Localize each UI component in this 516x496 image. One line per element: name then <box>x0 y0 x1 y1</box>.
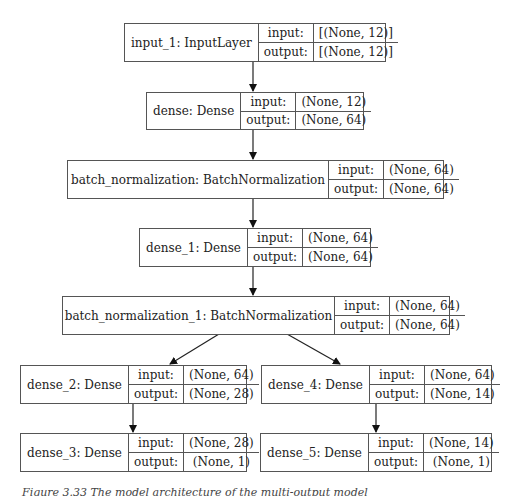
output-shape: (None, 64) <box>296 112 371 130</box>
caption-text: Figure 3.33 The model architecture of th… <box>0 486 516 496</box>
output-shape: (None, 64) <box>384 180 459 198</box>
output-shape: (None, 28) <box>184 385 259 403</box>
input-label: input: <box>259 24 313 43</box>
output-shape: (None, 64) <box>390 316 465 334</box>
output-label: output: <box>129 453 183 471</box>
input-shape: (None, 64) <box>390 297 465 316</box>
input-shape: (None, 64) <box>384 161 459 180</box>
input-shape: (None, 28) <box>184 434 259 453</box>
output-label: output: <box>248 248 302 266</box>
output-label: output: <box>241 112 295 130</box>
output-label: output: <box>129 385 183 403</box>
layer-input-1: input_1: InputLayer input: output: [(Non… <box>124 23 386 62</box>
layer-dense-2: dense_2: Dense input: output: (None, 64)… <box>20 365 247 404</box>
input-shape: [(None, 12)] <box>314 24 398 43</box>
layer-batch-normalization: batch_normalization: BatchNormalization … <box>67 160 444 199</box>
input-label: input: <box>241 93 295 112</box>
input-label: input: <box>329 161 383 180</box>
output-label: output: <box>329 180 383 198</box>
input-shape: (None, 12) <box>296 93 371 112</box>
output-shape: (None, 1) <box>424 453 499 471</box>
input-shape: (None, 64) <box>425 366 500 385</box>
output-shape: (None, 14) <box>425 385 500 403</box>
layer-name: dense: Dense <box>147 93 241 129</box>
output-shape: [(None, 12)] <box>314 43 398 61</box>
layer-name: dense_3: Dense <box>21 434 129 471</box>
output-shape: (None, 1) <box>184 453 259 471</box>
layer-dense-3: dense_3: Dense input: output: (None, 28)… <box>20 433 247 472</box>
layer-dense-5: dense_5: Dense input: output: (None, 14)… <box>260 433 492 472</box>
input-label: input: <box>248 229 302 248</box>
output-label: output: <box>369 453 423 471</box>
input-label: input: <box>129 434 183 453</box>
input-label: input: <box>370 366 424 385</box>
input-shape: (None, 64) <box>184 366 259 385</box>
input-label: input: <box>369 434 423 453</box>
output-label: output: <box>335 316 389 334</box>
layer-name: dense_2: Dense <box>21 366 129 403</box>
layer-name: dense_5: Dense <box>261 434 369 471</box>
layer-dense: dense: Dense input: output: (None, 12) (… <box>146 92 364 130</box>
layer-name: batch_normalization: BatchNormalization <box>68 161 329 198</box>
edge-bn1-dense4 <box>287 334 340 364</box>
layer-name: dense_1: Dense <box>140 229 248 266</box>
input-shape: (None, 64) <box>303 229 378 248</box>
input-label: input: <box>335 297 389 316</box>
layer-name: input_1: InputLayer <box>125 24 259 61</box>
edge-bn1-dense2 <box>170 334 219 364</box>
output-label: output: <box>259 43 313 61</box>
output-shape: (None, 64) <box>303 248 378 266</box>
figure-caption: Figure 3.33 The model architecture of th… <box>0 486 516 496</box>
input-shape: (None, 14) <box>424 434 499 453</box>
layer-dense-4: dense_4: Dense input: output: (None, 64)… <box>261 365 492 404</box>
input-label: input: <box>129 366 183 385</box>
layer-batch-normalization-1: batch_normalization_1: BatchNormalizatio… <box>62 296 450 335</box>
layer-dense-1: dense_1: Dense input: output: (None, 64)… <box>139 228 371 267</box>
output-label: output: <box>370 385 424 403</box>
layer-name: dense_4: Dense <box>262 366 370 403</box>
layer-name: batch_normalization_1: BatchNormalizatio… <box>63 297 335 334</box>
